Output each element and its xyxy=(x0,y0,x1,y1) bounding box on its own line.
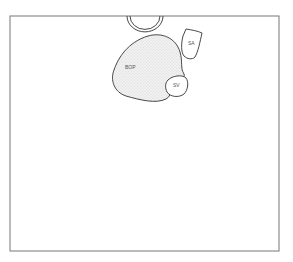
diagram-canvas: BOP SA SV xyxy=(0,0,293,262)
label-sa: SA xyxy=(188,40,195,46)
label-sv: SV xyxy=(173,82,180,88)
ring-shape xyxy=(127,16,163,32)
label-bop: BOP xyxy=(125,64,136,70)
